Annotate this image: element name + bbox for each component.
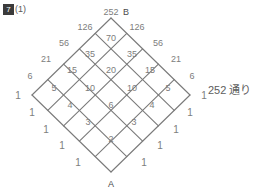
node-value: 20 [106, 66, 116, 75]
node-value: 10 [127, 84, 137, 93]
node-value: 1 [141, 158, 147, 167]
node-value: 2 [108, 135, 113, 144]
node-value: 1 [59, 141, 65, 150]
node-value: 21 [41, 55, 51, 64]
node-value: 6 [189, 72, 194, 81]
node-value: 1 [29, 108, 35, 117]
node-value: 70 [106, 34, 116, 43]
node-value: 6 [27, 72, 32, 81]
node-value: 15 [145, 66, 155, 75]
node-value: 1 [157, 141, 163, 150]
node-value: 6 [108, 101, 113, 110]
node-value: 56 [59, 39, 69, 48]
vertex-label-a: A [108, 180, 114, 189]
node-value: 3 [131, 118, 136, 127]
node-value: 35 [85, 50, 95, 59]
node-value: 10 [85, 84, 95, 93]
node-value: 1 [15, 91, 21, 100]
node-value: 35 [127, 50, 137, 59]
node-value: 126 [77, 23, 92, 32]
node-value: 1 [173, 125, 179, 134]
answer-text: 252 通り [208, 84, 251, 96]
node-value: 4 [149, 101, 154, 110]
node-value: 1 [187, 108, 193, 117]
node-value: 252 [103, 8, 118, 17]
node-value: 3 [85, 118, 90, 127]
node-value: 56 [153, 39, 163, 48]
node-value: 21 [171, 55, 181, 64]
node-value: 1 [43, 125, 49, 134]
node-value: 15 [67, 66, 77, 75]
node-value: 126 [129, 23, 144, 32]
node-value: 1 [201, 91, 207, 100]
diagram-canvas: 7 (1) 2521261265670562135352161520156151… [0, 0, 270, 193]
node-value: 1 [75, 158, 81, 167]
node-value: 4 [67, 101, 72, 110]
vertex-label-b: B [123, 8, 129, 17]
node-value: 5 [165, 84, 170, 93]
node-value: 5 [51, 84, 56, 93]
